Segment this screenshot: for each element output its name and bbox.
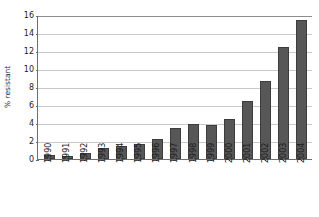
x-axis-slot: 1993 bbox=[93, 161, 111, 213]
x-axis-slot: 1994 bbox=[111, 161, 129, 213]
y-axis-tick-label: 4 bbox=[29, 120, 34, 128]
y-axis-tick-label: 10 bbox=[24, 66, 34, 74]
x-axis-slot: 1997 bbox=[165, 161, 183, 213]
y-axis-tick-label: 0 bbox=[29, 156, 34, 164]
x-axis-slot: 2004 bbox=[292, 161, 310, 213]
x-axis-slot: 2001 bbox=[238, 161, 256, 213]
x-axis-tick-label: 2003 bbox=[278, 143, 287, 163]
x-axis-slot: 1991 bbox=[57, 161, 75, 213]
x-axis-slot: 1992 bbox=[75, 161, 93, 213]
x-axis-slot: 1999 bbox=[202, 161, 220, 213]
x-axis-slot: 1998 bbox=[184, 161, 202, 213]
x-axis-tick-label: 1991 bbox=[62, 143, 71, 163]
y-axis-tick-label: 12 bbox=[24, 48, 34, 56]
bar-slot bbox=[184, 16, 202, 159]
bar-slot bbox=[40, 16, 58, 159]
x-axis-slot: 2000 bbox=[220, 161, 238, 213]
bar-slot bbox=[202, 16, 220, 159]
bar bbox=[296, 20, 307, 160]
x-axis-tick-label: 1995 bbox=[134, 143, 143, 163]
bar-slot bbox=[58, 16, 76, 159]
x-axis-tick-labels: 1990199119921993199419951996199719981999… bbox=[37, 161, 312, 213]
x-axis-tick-label: 2002 bbox=[260, 143, 269, 163]
x-axis-slot: 1995 bbox=[129, 161, 147, 213]
y-axis-tick-label: 8 bbox=[29, 84, 34, 92]
bar-slot bbox=[220, 16, 238, 159]
y-axis-tick-label: 16 bbox=[24, 12, 34, 20]
x-axis-tick-label: 1993 bbox=[98, 143, 107, 163]
x-axis-tick-label: 1990 bbox=[44, 143, 53, 163]
bar-slot bbox=[130, 16, 148, 159]
y-axis-tick-label: 6 bbox=[29, 102, 34, 110]
bar-slot bbox=[94, 16, 112, 159]
x-axis-tick-label: 1992 bbox=[80, 143, 89, 163]
x-axis-tick-label: 1998 bbox=[188, 143, 197, 163]
y-axis-tick-label: 14 bbox=[24, 30, 34, 38]
x-axis-slot: 2002 bbox=[256, 161, 274, 213]
bar-series bbox=[38, 16, 312, 159]
x-axis-tick-label: 1996 bbox=[152, 143, 161, 163]
bar-chart: % resistant 0246810121416 19901991199219… bbox=[0, 0, 319, 217]
bar-slot bbox=[292, 16, 310, 159]
x-axis-tick-label: 1999 bbox=[206, 143, 215, 163]
bar-slot bbox=[238, 16, 256, 159]
x-axis-tick-label: 2000 bbox=[224, 143, 233, 163]
y-axis-tick-labels: 0246810121416 bbox=[10, 0, 36, 217]
x-axis-tick-label: 1994 bbox=[116, 143, 125, 163]
bar-slot bbox=[256, 16, 274, 159]
y-axis-tick-label: 2 bbox=[29, 138, 34, 146]
bar-slot bbox=[112, 16, 130, 159]
x-axis-slot: 1996 bbox=[147, 161, 165, 213]
x-axis-slot: 1990 bbox=[39, 161, 57, 213]
x-axis-tick-label: 2004 bbox=[296, 143, 305, 163]
x-axis-tick-label: 2001 bbox=[242, 143, 251, 163]
bar-slot bbox=[166, 16, 184, 159]
x-axis-tick-label: 1997 bbox=[170, 143, 179, 163]
bar-slot bbox=[274, 16, 292, 159]
x-axis-slot: 2003 bbox=[274, 161, 292, 213]
bar-slot bbox=[148, 16, 166, 159]
bar-slot bbox=[76, 16, 94, 159]
plot-area bbox=[37, 16, 312, 160]
